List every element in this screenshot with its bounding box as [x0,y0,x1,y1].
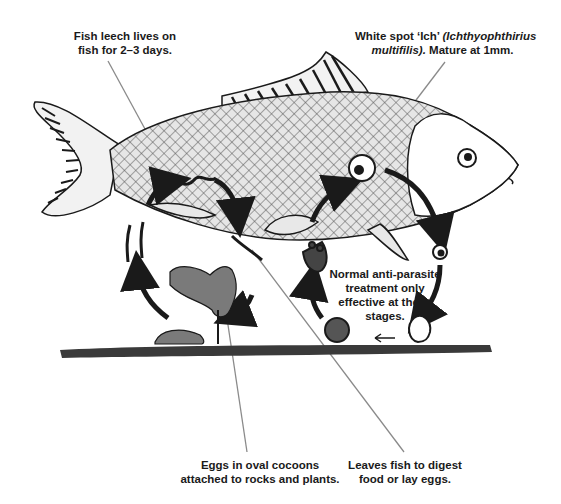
ground-line [60,345,492,358]
eggs-label-line1: Eggs in oval cocoons [180,458,340,472]
ich-label-common-name: White spot ‘Ich’ [355,30,443,42]
fish-tail [34,102,120,216]
hollow-arrow [375,334,395,342]
ich-label-size: Mature at 1mm. [426,44,514,56]
eggs-label: Eggs in oval cocoons attached to rocks a… [180,458,340,486]
ich-label: White spot ‘Ich’ (Ichthyophthirius multi… [355,29,530,57]
fish-parasite-lifecycle-illustration [0,0,561,504]
treatment-label-line1: Normal anti-parasite [325,267,445,281]
eggs-label-line2: attached to rocks and plants. [180,472,340,486]
leech-label-line1: Fish leech lives on [55,29,195,43]
cocoon-on-rock [155,330,204,344]
fish-mouth [508,178,513,184]
ich-label-scientific-name-part1: (Ichthyophthirius [443,30,537,42]
leaves-fish-label: Leaves fish to digest food or lay eggs. [345,458,465,486]
leech-label-line2: fish for 2–3 days. [55,43,195,57]
treatment-label-line3: effective at these [325,295,445,309]
leaves-fish-label-line2: food or lay eggs. [345,472,465,486]
treatment-label: Normal anti-parasite treatment only effe… [325,267,445,323]
egg-cocoons [155,267,236,344]
leech-label: Fish leech lives on fish for 2–3 days. [55,29,195,57]
cocoon-on-plant [170,267,236,317]
ich-label-scientific-name-part2: multifilis). [372,44,426,56]
treatment-label-line2: treatment only [325,281,445,295]
eggs-leader-line [225,305,247,452]
leaves-fish-label-line1: Leaves fish to digest [345,458,465,472]
treatment-label-line4: stages. [325,309,445,323]
